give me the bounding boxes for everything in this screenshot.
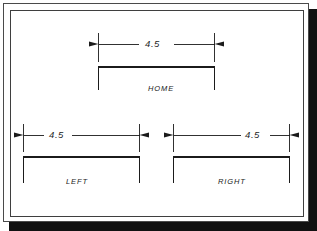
dimension-value-home: 4.5 [145,38,160,49]
dimension-value-right: 4.5 [245,129,260,140]
part-label-right: RIGHT [218,177,246,186]
part-label-home: HOME [148,84,174,93]
part-left-geometry [24,124,140,183]
drawing-canvas: 4.5 HOME 4.5 LEFT 4.5 RIGHT [0,0,317,231]
part-label-left: LEFT [66,177,88,186]
dimension-value-left: 4.5 [49,129,64,140]
part-right-geometry [174,124,290,183]
drawing-sheet-wrapper: 4.5 HOME 4.5 LEFT 4.5 RIGHT [0,0,317,231]
drawing-geometry [0,0,317,231]
